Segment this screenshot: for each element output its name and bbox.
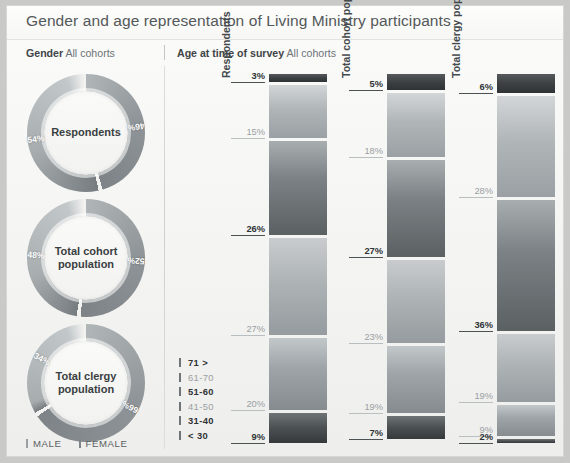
age-legend-label: 51-60 bbox=[188, 386, 214, 397]
age-heading-cohorts: All cohorts bbox=[287, 47, 336, 59]
bar-segment-respondents-4150[interactable] bbox=[269, 238, 327, 335]
age-legend-label: 31-40 bbox=[188, 415, 214, 426]
bar-value-label-total-cohort-population-30: 7% bbox=[349, 428, 383, 440]
donut-label-total-cohort-population: Total cohortpopulation bbox=[37, 199, 135, 317]
bar-stack-total-clergy-population bbox=[497, 74, 555, 446]
donut-label-total-clergy-population: Total clergypopulation bbox=[37, 324, 135, 442]
bar-segment-total-cohort-population-5160[interactable] bbox=[387, 160, 445, 257]
age-legend-swatch-icon bbox=[179, 431, 181, 440]
donut-male-pct-total-cohort-population: 48% bbox=[27, 249, 45, 260]
bar-value-label-total-clergy-population-5160: 36% bbox=[459, 320, 493, 332]
bar-value-label-total-clergy-population-6170: 28% bbox=[459, 186, 493, 198]
age-legend-item-30[interactable]: < 30 bbox=[179, 430, 214, 445]
donut-label-respondents: Respondents bbox=[37, 74, 135, 192]
bar-segment-total-cohort-population-71[interactable] bbox=[387, 74, 445, 90]
bar-segment-total-clergy-population-30[interactable] bbox=[497, 439, 555, 443]
gender-legend-label: FEMALE bbox=[86, 438, 128, 449]
donut-female-pct-total-cohort-population: 52% bbox=[127, 256, 145, 267]
bar-segment-total-cohort-population-4150[interactable] bbox=[387, 260, 445, 343]
bar-segment-total-cohort-population-3140[interactable] bbox=[387, 346, 445, 414]
age-legend-item-71[interactable]: 71 > bbox=[179, 357, 214, 372]
bar-stack-respondents bbox=[269, 74, 327, 446]
bar-value-label-respondents-6170: 15% bbox=[231, 127, 265, 139]
bar-segment-total-clergy-population-4150[interactable] bbox=[497, 334, 555, 402]
bar-segment-total-cohort-population-6170[interactable] bbox=[387, 93, 445, 157]
bar-axis-label-total-cohort-population: Total cohort population bbox=[340, 0, 352, 78]
age-section-heading: Age at time of survey All cohorts bbox=[177, 47, 336, 59]
male-swatch-icon bbox=[26, 439, 28, 448]
bar-value-label-total-cohort-population-71: 5% bbox=[349, 79, 383, 91]
donut-chart-respondents: Respondents46%54% bbox=[27, 74, 145, 192]
age-legend-swatch-icon bbox=[179, 358, 181, 367]
age-legend-item-3140[interactable]: 31-40 bbox=[179, 415, 214, 430]
bar-value-label-total-cohort-population-6170: 18% bbox=[349, 146, 383, 158]
age-legend-swatch-icon bbox=[179, 387, 181, 396]
bar-segment-total-cohort-population-30[interactable] bbox=[387, 416, 445, 439]
age-legend-label: < 30 bbox=[188, 430, 208, 441]
gender-section-heading: Gender All cohorts bbox=[26, 47, 115, 59]
bar-value-label-total-cohort-population-3140: 19% bbox=[349, 402, 383, 414]
age-legend-label: 61-70 bbox=[188, 372, 214, 383]
bar-axis-label-total-clergy-population: Total clergy population bbox=[450, 0, 462, 78]
bar-segment-total-clergy-population-5160[interactable] bbox=[497, 200, 555, 331]
bar-segment-total-clergy-population-71[interactable] bbox=[497, 74, 555, 93]
age-legend: 71 >61-7051-6041-5031-40< 30 bbox=[179, 357, 214, 445]
gender-legend-item-female[interactable]: FEMALE bbox=[79, 438, 128, 449]
gender-heading-bold: Gender bbox=[26, 47, 63, 59]
bar-value-label-total-cohort-population-4150: 23% bbox=[349, 332, 383, 344]
age-legend-item-4150[interactable]: 41-50 bbox=[179, 401, 214, 416]
gender-legend-label: MALE bbox=[33, 438, 62, 449]
age-legend-label: 41-50 bbox=[188, 401, 214, 412]
bar-segment-respondents-6170[interactable] bbox=[269, 85, 327, 138]
age-legend-swatch-icon bbox=[179, 373, 181, 382]
bar-value-label-total-clergy-population-30: 2% bbox=[459, 432, 493, 444]
panel-divider bbox=[164, 66, 165, 449]
infographic-poster: Gender and age representation of Living … bbox=[7, 6, 563, 456]
bar-segment-respondents-71[interactable] bbox=[269, 74, 327, 82]
page-title: Gender and age representation of Living … bbox=[26, 12, 451, 30]
gender-legend-item-male[interactable]: MALE bbox=[26, 438, 62, 449]
bar-segment-total-clergy-population-6170[interactable] bbox=[497, 96, 555, 197]
age-legend-item-5160[interactable]: 51-60 bbox=[179, 386, 214, 401]
age-legend-swatch-icon bbox=[179, 416, 181, 425]
bar-segment-respondents-30[interactable] bbox=[269, 413, 327, 443]
bar-value-label-total-cohort-population-5160: 27% bbox=[349, 246, 383, 258]
donut-female-pct-respondents: 46% bbox=[126, 121, 144, 133]
donut-chart-total-cohort-population: Total cohortpopulation52%48% bbox=[27, 199, 145, 317]
heading-divider bbox=[164, 45, 165, 60]
bar-value-label-respondents-30: 9% bbox=[231, 432, 265, 444]
donut-chart-total-clergy-population: Total clergypopulation66%34% bbox=[27, 324, 145, 442]
bar-value-label-total-clergy-population-71: 6% bbox=[459, 82, 493, 94]
female-swatch-icon bbox=[79, 439, 81, 448]
bar-stack-total-cohort-population bbox=[387, 74, 445, 446]
bar-axis-label-respondents: Respondents bbox=[220, 11, 232, 78]
bar-segment-total-clergy-population-3140[interactable] bbox=[497, 405, 555, 435]
bar-value-label-respondents-3140: 20% bbox=[231, 399, 265, 411]
gender-legend: MALEFEMALE bbox=[26, 438, 145, 449]
gender-heading-cohorts: All cohorts bbox=[65, 47, 114, 59]
age-legend-label: 71 > bbox=[188, 357, 208, 368]
bar-value-label-respondents-71: 3% bbox=[231, 71, 265, 83]
bar-value-label-respondents-5160: 26% bbox=[231, 224, 265, 236]
bar-segment-respondents-3140[interactable] bbox=[269, 338, 327, 409]
bar-value-label-total-clergy-population-4150: 19% bbox=[459, 391, 493, 403]
bar-segment-respondents-5160[interactable] bbox=[269, 141, 327, 235]
age-legend-swatch-icon bbox=[179, 402, 181, 411]
age-legend-item-6170[interactable]: 61-70 bbox=[179, 372, 214, 387]
bar-value-label-respondents-4150: 27% bbox=[231, 324, 265, 336]
